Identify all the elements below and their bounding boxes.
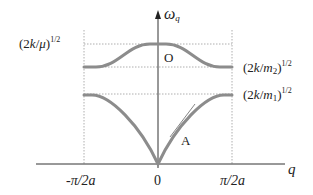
y-axis-arrow-icon [155,10,161,19]
omega-subscript: q [175,13,180,23]
x-tick-pos: π/2a [220,174,245,188]
acoustic-branch-label: A [181,134,190,147]
y-axis-label: ωq [164,6,180,23]
level-label-m2: (2k/m2)1/2 [243,60,292,76]
x-tick-zero: 0 [154,174,161,188]
omega-symbol: ω [164,5,175,22]
optical-branch-label: O [164,51,173,64]
x-tick-neg: -π/2a [66,174,96,188]
level-label-top: (2k/μ)1/2 [19,36,60,50]
level-label-m1: (2k/m1)1/2 [243,87,292,103]
x-axis-label: q [288,162,296,177]
